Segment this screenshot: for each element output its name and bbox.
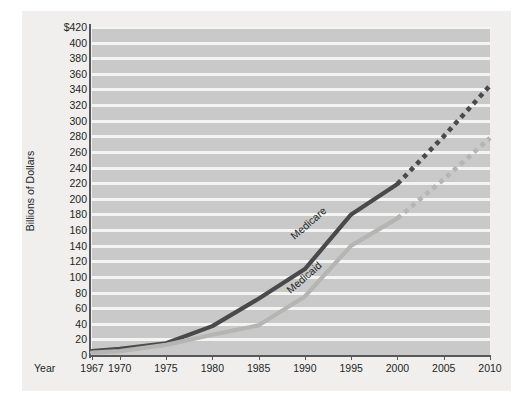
series-projection-medicare (397, 86, 490, 184)
x-tick-mark (351, 355, 352, 360)
x-tick-mark (259, 355, 260, 360)
series-lines (0, 0, 524, 402)
y-axis-title: Billions of Dollars (24, 136, 36, 246)
x-tick-mark (120, 355, 121, 360)
x-axis-title: Year (34, 362, 55, 374)
x-tick-mark (305, 355, 306, 360)
x-tick-mark (212, 355, 213, 360)
x-tick-mark (92, 355, 93, 360)
x-tick-mark (166, 355, 167, 360)
series-line-medicaid (92, 218, 397, 352)
x-tick-mark (444, 355, 445, 360)
x-tick-mark (397, 355, 398, 360)
x-tick-mark (490, 355, 491, 360)
chart-figure: $420400380360340320300280260240220200180… (0, 0, 524, 402)
series-projection-medicaid (397, 138, 490, 218)
